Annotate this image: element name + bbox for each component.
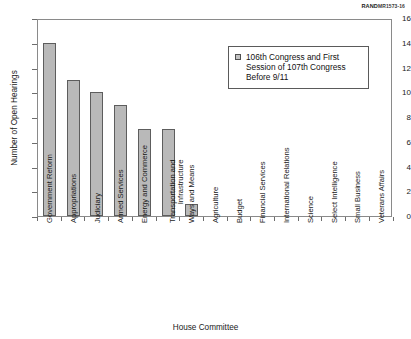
x-category-label: Budget: [236, 199, 244, 223]
x-category-label: Appropriations: [70, 174, 78, 223]
x-tick-mark: [298, 217, 299, 221]
x-tick-mark: [250, 217, 251, 221]
x-category-label: Transportation andInfrastructure: [169, 160, 186, 223]
x-category-label: International Relations: [283, 147, 291, 223]
x-tick-mark: [108, 217, 109, 221]
x-tick-mark: [227, 217, 228, 221]
x-tick-mark: [156, 217, 157, 221]
x-category-label: Armed Services: [117, 169, 125, 223]
legend-label-line2: Session of 107th Congress: [246, 62, 346, 72]
x-tick-mark: [132, 217, 133, 221]
x-tick-mark: [203, 217, 204, 221]
x-category-label: Energy and Commerce: [141, 145, 149, 223]
legend-swatch-icon: [235, 54, 241, 60]
x-tick-mark: [274, 217, 275, 221]
chart-legend: 106th Congress and First Session of 107t…: [228, 46, 369, 89]
source-credit-brand: RAND: [361, 3, 378, 9]
x-category-label: Agriculture: [212, 187, 220, 223]
chart-figure: RANDMR1573-16 Number of Open Hearings 02…: [0, 0, 411, 339]
x-tick-mark: [84, 217, 85, 221]
x-tick-mark: [61, 217, 62, 221]
legend-label-line1: 106th Congress and First: [246, 52, 339, 62]
x-category-label: Judiciary: [94, 193, 102, 223]
legend-label-line3: Before 9/11: [246, 72, 288, 82]
x-tick-mark: [345, 217, 346, 221]
x-category-label: Science: [307, 196, 315, 223]
x-tick-mark: [393, 217, 394, 221]
y-axis-title: Number of Open Hearings: [8, 19, 21, 217]
x-category-label: Ways and Means: [188, 165, 196, 223]
x-category-label: Small Business: [354, 171, 362, 223]
x-tick-mark: [37, 217, 38, 221]
x-tick-mark: [369, 217, 370, 221]
source-credit: RANDMR1573-16: [361, 3, 405, 9]
x-category-label: Government Reform: [46, 154, 54, 223]
legend-label: 106th Congress and First Session of 107t…: [246, 52, 346, 83]
x-category-label: Select Intelligence: [331, 161, 339, 223]
x-tick-mark: [321, 217, 322, 221]
x-category-label: Financial Services: [259, 161, 267, 223]
x-axis-title: House Committee: [0, 323, 411, 332]
x-category-label: Veterans Affairs: [378, 170, 386, 223]
source-credit-id: MR1573-16: [378, 3, 405, 9]
